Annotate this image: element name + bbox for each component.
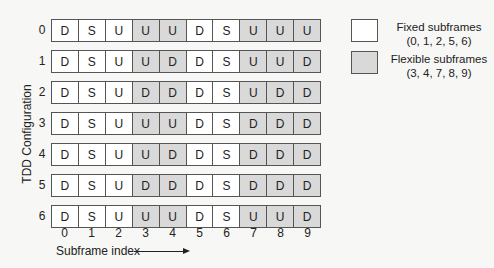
subframe-cell: D [160, 51, 187, 72]
config-label: 3 [36, 112, 48, 135]
subframe-cell: S [213, 144, 240, 165]
subframe-cell: U [106, 20, 133, 41]
subframe-cell: U [160, 113, 187, 134]
config-row: DSUDDDSUDD [51, 81, 321, 104]
config-label: 6 [36, 205, 48, 228]
subframe-cell: S [79, 20, 106, 41]
subframe-cell: U [160, 20, 187, 41]
subframe-cell: S [79, 206, 106, 227]
subframe-index-label: 6 [213, 226, 240, 240]
subframe-cell: U [267, 51, 294, 72]
subframe-index-label: 1 [78, 226, 105, 240]
subframe-cell: U [133, 144, 160, 165]
subframe-cell: U [106, 82, 133, 103]
subframe-index-label: 0 [51, 226, 78, 240]
subframe-cell: U [133, 20, 160, 41]
subframe-cell: D [187, 82, 214, 103]
legend-flexible-indices: (3, 4, 7, 8, 9) [384, 66, 494, 80]
subframe-cell: D [187, 206, 214, 227]
subframe-cell: D [294, 82, 320, 103]
legend-fixed-indices: (0, 1, 2, 5, 6) [384, 34, 494, 48]
subframe-cell: D [267, 82, 294, 103]
subframe-cell: S [213, 51, 240, 72]
subframe-cell: D [52, 206, 79, 227]
subframe-index-label: 8 [267, 226, 294, 240]
subframe-cell: D [52, 144, 79, 165]
subframe-cell: S [213, 206, 240, 227]
subframe-cell: S [213, 82, 240, 103]
subframe-cell: D [294, 206, 320, 227]
subframe-cell: D [52, 113, 79, 134]
subframe-cell: U [267, 206, 294, 227]
subframe-cell: D [187, 20, 214, 41]
subframe-cell: S [79, 82, 106, 103]
subframe-cell: U [106, 206, 133, 227]
subframe-cell: D [240, 113, 267, 134]
config-label: 0 [36, 19, 48, 42]
subframe-cell: D [240, 175, 267, 196]
config-row: DSUUDDSUUD [51, 50, 321, 73]
subframe-index-label: 3 [132, 226, 159, 240]
legend-swatch-flexible [351, 51, 378, 74]
subframe-cell: U [240, 20, 267, 41]
subframe-cell: D [52, 51, 79, 72]
subframe-cell: U [133, 206, 160, 227]
subframe-cell: U [133, 113, 160, 134]
subframe-cell: S [79, 51, 106, 72]
subframe-cell: U [133, 51, 160, 72]
subframe-index-label: 2 [105, 226, 132, 240]
config-row: DSUUUDSDDD [51, 112, 321, 135]
subframe-cell: D [52, 20, 79, 41]
legend-swatch-fixed [351, 19, 378, 42]
subframe-cell: D [187, 113, 214, 134]
subframe-cell: U [240, 82, 267, 103]
config-label: 5 [36, 174, 48, 197]
subframe-cell: D [160, 82, 187, 103]
legend-fixed-title: Fixed subframes [384, 20, 494, 34]
subframe-cell: U [240, 51, 267, 72]
subframe-cell: S [79, 113, 106, 134]
subframe-cell: S [79, 175, 106, 196]
subframe-cell: S [213, 20, 240, 41]
subframe-cell: D [187, 51, 214, 72]
subframe-cell: S [79, 144, 106, 165]
subframe-cell: U [106, 144, 133, 165]
config-row: DSUUDDSDDD [51, 143, 321, 166]
subframe-cell: D [52, 82, 79, 103]
subframe-cell: U [106, 175, 133, 196]
subframe-cell: S [213, 175, 240, 196]
subframe-cell: D [294, 144, 320, 165]
subframe-cell: D [52, 175, 79, 196]
subframe-cell: D [294, 175, 320, 196]
subframe-cell: U [106, 51, 133, 72]
arrow-right-icon [134, 251, 184, 252]
x-axis-label: Subframe index [56, 244, 140, 258]
subframe-cell: D [267, 113, 294, 134]
subframe-cell: D [187, 175, 214, 196]
subframe-cell: D [294, 51, 320, 72]
subframe-cell: U [106, 113, 133, 134]
config-label: 2 [36, 81, 48, 104]
subframe-index-label: 7 [240, 226, 267, 240]
config-label: 1 [36, 50, 48, 73]
legend-fixed-label: Fixed subframes (0, 1, 2, 5, 6) [384, 20, 494, 48]
subframe-cell: S [213, 113, 240, 134]
subframe-cell: D [294, 113, 320, 134]
subframe-cell: U [240, 206, 267, 227]
subframe-index-label: 4 [159, 226, 186, 240]
config-row: DSUDDDSDDD [51, 174, 321, 197]
subframe-cell: U [267, 20, 294, 41]
config-row: DSUUUDSUUD [51, 205, 321, 228]
subframe-cell: D [240, 144, 267, 165]
subframe-cell: D [267, 175, 294, 196]
subframe-cell: D [133, 82, 160, 103]
subframe-index-label: 9 [294, 226, 321, 240]
legend-flexible-label: Flexible subframes (3, 4, 7, 8, 9) [384, 52, 494, 80]
subframe-cell: D [133, 175, 160, 196]
config-label: 4 [36, 143, 48, 166]
subframe-cell: D [160, 175, 187, 196]
subframe-cell: U [294, 20, 320, 41]
config-row: DSUUUDSUUU [51, 19, 321, 42]
y-axis-label: TDD Configuration [20, 84, 34, 183]
subframe-index-label: 5 [186, 226, 213, 240]
